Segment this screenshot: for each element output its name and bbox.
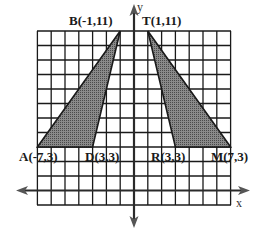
point-label-M: M(7,3) (211, 150, 248, 163)
point-label-A: A(-7,3) (19, 150, 58, 163)
x-axis-label: x (236, 197, 242, 209)
point-label-T: T(1,11) (142, 14, 181, 27)
point-label-D: D(3,3) (85, 150, 119, 163)
point-label-B: B(-1,11) (69, 14, 113, 27)
y-axis-label: y (137, 1, 143, 13)
point-label-R: R(3,3) (151, 150, 185, 163)
coordinate-plane (0, 0, 271, 242)
